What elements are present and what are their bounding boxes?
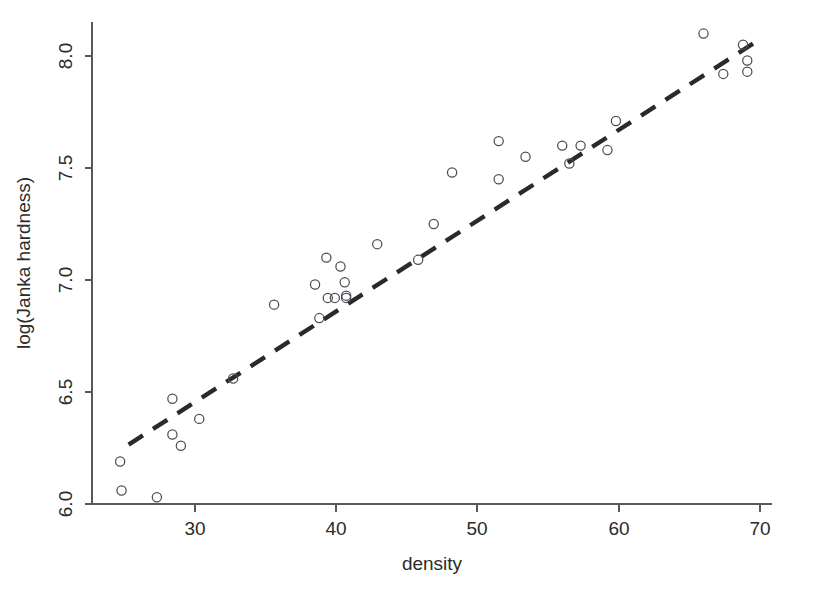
y-tick-label-6-0: 6.0: [55, 491, 76, 517]
data-point: [116, 457, 125, 466]
data-point: [611, 116, 620, 125]
x-axis-title: density: [402, 553, 463, 574]
axes-group: [92, 22, 772, 504]
x-tick-label-30: 30: [184, 518, 205, 539]
data-point: [414, 255, 423, 264]
x-tick-labels: 30 40 50 60 70: [184, 518, 770, 539]
data-point: [152, 493, 161, 502]
data-point: [429, 219, 438, 228]
x-tick-label-50: 50: [466, 518, 487, 539]
data-point: [315, 313, 324, 322]
data-point: [494, 137, 503, 146]
data-point: [342, 291, 351, 300]
data-point: [330, 293, 339, 302]
x-tick-label-70: 70: [749, 518, 770, 539]
data-point: [576, 141, 585, 150]
x-tick-marks: [195, 504, 760, 512]
data-point: [373, 240, 382, 249]
data-point: [270, 300, 279, 309]
janka-hardness-scatter-figure: 8.0 7.5 7.0 6.5 6.0 30 40 50 60 70 densi…: [0, 0, 817, 591]
data-point: [340, 278, 349, 287]
data-point: [322, 253, 331, 262]
data-points-group: [116, 29, 752, 502]
y-axis-title: log(Janka hardness): [13, 177, 34, 349]
data-point: [699, 29, 708, 38]
y-tick-label-7-5: 7.5: [55, 155, 76, 181]
data-point: [117, 486, 126, 495]
y-tick-marks: [85, 56, 92, 504]
data-point: [603, 145, 612, 154]
y-tick-label-7-0: 7.0: [55, 267, 76, 293]
data-point: [558, 141, 567, 150]
data-point: [521, 152, 530, 161]
data-point: [176, 441, 185, 450]
data-point: [195, 414, 204, 423]
data-point: [168, 394, 177, 403]
data-point: [743, 67, 752, 76]
fit-line: [129, 39, 760, 444]
data-point: [494, 175, 503, 184]
y-tick-labels: 8.0 7.5 7.0 6.5 6.0: [55, 43, 76, 517]
x-tick-label-40: 40: [325, 518, 346, 539]
y-tick-label-8-0: 8.0: [55, 43, 76, 69]
plot-canvas: 8.0 7.5 7.0 6.5 6.0 30 40 50 60 70 densi…: [0, 0, 817, 591]
data-point: [168, 430, 177, 439]
data-point: [336, 262, 345, 271]
data-point: [719, 69, 728, 78]
data-point: [310, 280, 319, 289]
y-tick-label-6-5: 6.5: [55, 379, 76, 405]
data-point: [743, 56, 752, 65]
x-tick-label-60: 60: [608, 518, 629, 539]
data-point: [447, 168, 456, 177]
data-point: [342, 293, 351, 302]
